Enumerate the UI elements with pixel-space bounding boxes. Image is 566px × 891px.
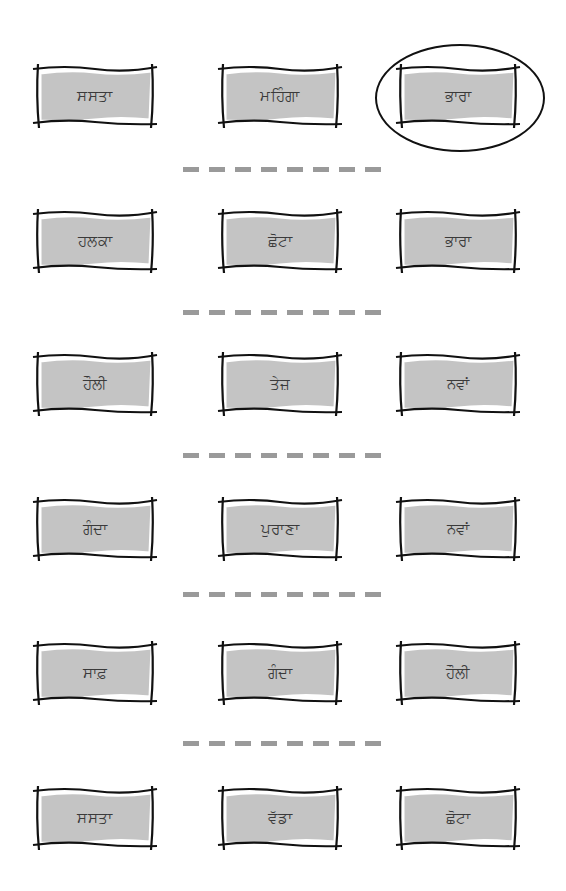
separator bbox=[183, 741, 383, 746]
word-card[interactable]: ਭਾਰਾ bbox=[393, 209, 523, 273]
word-label: ਨਵਾਂ bbox=[393, 497, 523, 561]
dash bbox=[209, 453, 225, 458]
dash bbox=[287, 592, 303, 597]
dash bbox=[339, 167, 355, 172]
word-card[interactable]: ਛੋਟਾ bbox=[393, 786, 523, 850]
dash bbox=[261, 167, 277, 172]
word-label: ਗੰਦਾ bbox=[215, 641, 345, 705]
dash bbox=[209, 741, 225, 746]
word-label: ਹੌਲੀ bbox=[30, 352, 160, 416]
word-label: ਨਵਾਂ bbox=[393, 352, 523, 416]
word-card[interactable]: ਹੌਲੀ bbox=[393, 641, 523, 705]
word-label: ਸਾਫ਼ bbox=[30, 641, 160, 705]
dash bbox=[365, 592, 381, 597]
dash bbox=[209, 310, 225, 315]
separator bbox=[183, 167, 383, 172]
dash bbox=[209, 167, 225, 172]
worksheet: ਸਸਤਾ ਮਹਿੰਗਾ ਭਾਰਾ bbox=[0, 0, 566, 891]
dash bbox=[365, 310, 381, 315]
word-label: ਸਸਤਾ bbox=[30, 64, 160, 128]
dash bbox=[235, 167, 251, 172]
word-label: ਤੇਜ਼ bbox=[215, 352, 345, 416]
dash bbox=[235, 741, 251, 746]
dash bbox=[261, 741, 277, 746]
word-label: ਭਾਰਾ bbox=[393, 64, 523, 128]
dash bbox=[339, 741, 355, 746]
word-card[interactable]: ਪੁਰਾਣਾ bbox=[215, 497, 345, 561]
word-label: ਪੁਰਾਣਾ bbox=[215, 497, 345, 561]
dash bbox=[339, 310, 355, 315]
word-label: ਸਸਤਾ bbox=[30, 786, 160, 850]
word-card[interactable]: ਹਲਕਾ bbox=[30, 209, 160, 273]
dash bbox=[183, 741, 199, 746]
separator bbox=[183, 592, 383, 597]
word-card[interactable]: ਮਹਿੰਗਾ bbox=[215, 64, 345, 128]
word-card[interactable]: ਭਾਰਾ bbox=[393, 64, 523, 128]
dash bbox=[235, 592, 251, 597]
dash bbox=[365, 167, 381, 172]
separator bbox=[183, 453, 383, 458]
dash bbox=[339, 453, 355, 458]
word-label: ਮਹਿੰਗਾ bbox=[215, 64, 345, 128]
dash bbox=[261, 592, 277, 597]
dash bbox=[365, 453, 381, 458]
dash bbox=[339, 592, 355, 597]
dash bbox=[313, 310, 329, 315]
dash bbox=[235, 310, 251, 315]
dash bbox=[313, 741, 329, 746]
dash bbox=[183, 167, 199, 172]
word-label: ਵੱਡਾ bbox=[215, 786, 345, 850]
word-label: ਛੋਟਾ bbox=[215, 209, 345, 273]
word-card[interactable]: ਹੌਲੀ bbox=[30, 352, 160, 416]
dash bbox=[313, 167, 329, 172]
dash bbox=[209, 592, 225, 597]
word-label: ਹੌਲੀ bbox=[393, 641, 523, 705]
word-card[interactable]: ਤੇਜ਼ bbox=[215, 352, 345, 416]
dash bbox=[261, 310, 277, 315]
dash bbox=[313, 592, 329, 597]
word-card[interactable]: ਵੱਡਾ bbox=[215, 786, 345, 850]
word-label: ਛੋਟਾ bbox=[393, 786, 523, 850]
word-card[interactable]: ਸਸਤਾ bbox=[30, 786, 160, 850]
dash bbox=[261, 453, 277, 458]
dash bbox=[287, 167, 303, 172]
word-card[interactable]: ਨਵਾਂ bbox=[393, 352, 523, 416]
separator bbox=[183, 310, 383, 315]
dash bbox=[183, 592, 199, 597]
dash bbox=[235, 453, 251, 458]
word-label: ਹਲਕਾ bbox=[30, 209, 160, 273]
word-card[interactable]: ਗੰਦਾ bbox=[215, 641, 345, 705]
dash bbox=[287, 310, 303, 315]
dash bbox=[365, 741, 381, 746]
word-card[interactable]: ਛੋਟਾ bbox=[215, 209, 345, 273]
dash bbox=[287, 453, 303, 458]
word-label: ਭਾਰਾ bbox=[393, 209, 523, 273]
word-card[interactable]: ਸਸਤਾ bbox=[30, 64, 160, 128]
dash bbox=[183, 310, 199, 315]
dash bbox=[183, 453, 199, 458]
word-card[interactable]: ਸਾਫ਼ bbox=[30, 641, 160, 705]
dash bbox=[287, 741, 303, 746]
dash bbox=[313, 453, 329, 458]
word-card[interactable]: ਨਵਾਂ bbox=[393, 497, 523, 561]
word-label: ਗੰਦਾ bbox=[30, 497, 160, 561]
word-card[interactable]: ਗੰਦਾ bbox=[30, 497, 160, 561]
